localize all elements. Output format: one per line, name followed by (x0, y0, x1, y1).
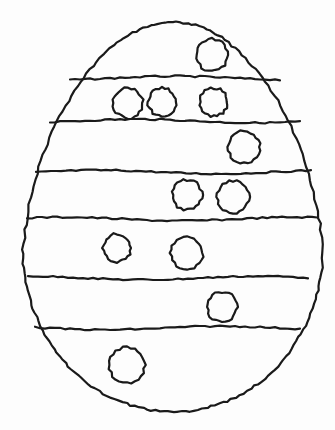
dot (147, 87, 176, 117)
dot (172, 179, 203, 210)
stripe-line (70, 75, 280, 80)
dot (113, 87, 144, 119)
dot (102, 233, 131, 263)
dot (109, 346, 146, 383)
dot (170, 236, 204, 269)
coloring-page: Easter egg coloring page (0, 0, 335, 430)
stripe-line (28, 276, 308, 280)
dot (216, 180, 250, 213)
dot (227, 130, 260, 163)
stripe-line (35, 326, 300, 331)
dot (196, 38, 228, 71)
stripe-line (36, 170, 311, 175)
egg-drawing (0, 0, 335, 430)
dot (207, 292, 238, 322)
stripe-line (50, 119, 300, 124)
stripe-line (27, 217, 317, 222)
dot (200, 88, 228, 117)
egg-dots (102, 38, 260, 384)
